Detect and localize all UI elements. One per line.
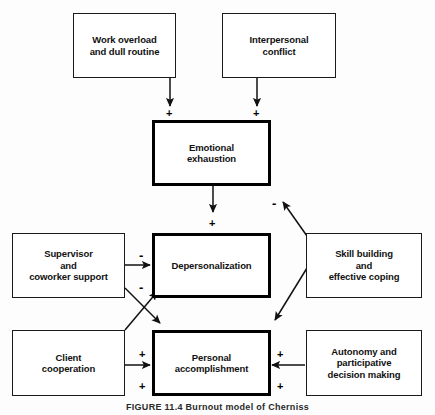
node-interpersonal-conflict-line1: Interpersonal <box>250 34 309 46</box>
node-autonomy[interactable]: Autonomy and participative decision maki… <box>306 330 422 396</box>
node-emotional-exhaustion-line2: exhaustion <box>187 153 236 165</box>
node-skill-building-line3: effective coping <box>329 271 400 283</box>
node-personal-accomplishment-line1: Personal <box>175 352 249 364</box>
sign-client-to-depersonalization: - <box>139 284 143 291</box>
burnout-model-diagram: Work overload and dull routine Interpers… <box>0 0 435 415</box>
sign-workload-to-exhaustion: + <box>166 109 172 118</box>
node-autonomy-line1: Autonomy and <box>328 346 401 358</box>
node-supervisor-support-line3: coworker support <box>29 271 108 283</box>
node-emotional-exhaustion-line1: Emotional <box>187 142 236 154</box>
sign-conflict-to-exhaustion: + <box>253 109 259 118</box>
node-skill-building[interactable]: Skill building and effective coping <box>306 233 422 298</box>
node-client-cooperation-line1: Client <box>42 352 95 364</box>
sign-skill-to-exhaustion: - <box>272 200 276 207</box>
sign-client-to-accomplishment: + <box>139 382 145 391</box>
node-depersonalization[interactable]: Depersonalization <box>152 233 271 298</box>
sign-support-to-accomplishment: + <box>139 350 145 359</box>
edge-skill-to-accomplishment <box>275 268 307 320</box>
figure-caption: FIGURE 11.4 Burnout model of Cherniss <box>0 402 435 415</box>
node-supervisor-support[interactable]: Supervisor and coworker support <box>12 233 125 298</box>
sign-support-to-depersonalization: - <box>139 252 143 259</box>
sign-skill-to-accomplishment: + <box>277 350 283 359</box>
node-emotional-exhaustion[interactable]: Emotional exhaustion <box>152 120 271 186</box>
sign-autonomy-to-accomplishment: + <box>277 382 283 391</box>
node-client-cooperation[interactable]: Client cooperation <box>12 330 125 396</box>
node-depersonalization-line1: Depersonalization <box>171 260 251 272</box>
node-personal-accomplishment[interactable]: Personal accomplishment <box>152 330 271 396</box>
sign-exhaustion-to-depersonalization: + <box>209 219 215 228</box>
node-supervisor-support-line2: and <box>29 260 108 272</box>
node-interpersonal-conflict[interactable]: Interpersonal conflict <box>222 13 336 78</box>
node-work-overload-line1: Work overload <box>90 34 160 46</box>
node-autonomy-line3: decision making <box>328 369 401 381</box>
node-client-cooperation-line2: cooperation <box>42 363 95 375</box>
node-work-overload[interactable]: Work overload and dull routine <box>73 13 176 78</box>
node-personal-accomplishment-line2: accomplishment <box>175 363 249 375</box>
node-autonomy-line2: participative <box>328 357 401 369</box>
node-interpersonal-conflict-line2: conflict <box>250 46 309 58</box>
node-work-overload-line2: and dull routine <box>90 46 160 58</box>
node-supervisor-support-line1: Supervisor <box>29 248 108 260</box>
node-skill-building-line2: and <box>329 260 400 272</box>
node-skill-building-line1: Skill building <box>329 248 400 260</box>
edge-skill-to-exhaustion <box>283 202 307 236</box>
